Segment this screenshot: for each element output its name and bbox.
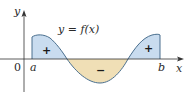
b-label: b [158,61,165,74]
plus-sign-right: + [144,42,153,55]
y-axis-label: y [13,5,21,18]
area-diagram: y x 0 a b y = f(x) + − + [0,0,192,101]
minus-sign: − [96,64,105,77]
plus-sign-left: + [42,44,51,57]
origin-label: 0 [14,61,21,74]
x-axis-label: x [176,62,183,75]
a-label: a [30,61,37,74]
function-label: y = f(x) [57,23,99,36]
